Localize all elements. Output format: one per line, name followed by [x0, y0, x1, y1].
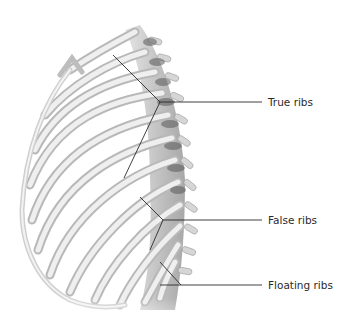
label-floating-ribs: Floating ribs — [268, 279, 333, 291]
rib-cage-illustration — [0, 0, 337, 326]
label-false-ribs: False ribs — [268, 214, 317, 226]
label-true-ribs: True ribs — [268, 96, 313, 108]
rib-cage-diagram: True ribs False ribs Floating ribs — [0, 0, 337, 326]
